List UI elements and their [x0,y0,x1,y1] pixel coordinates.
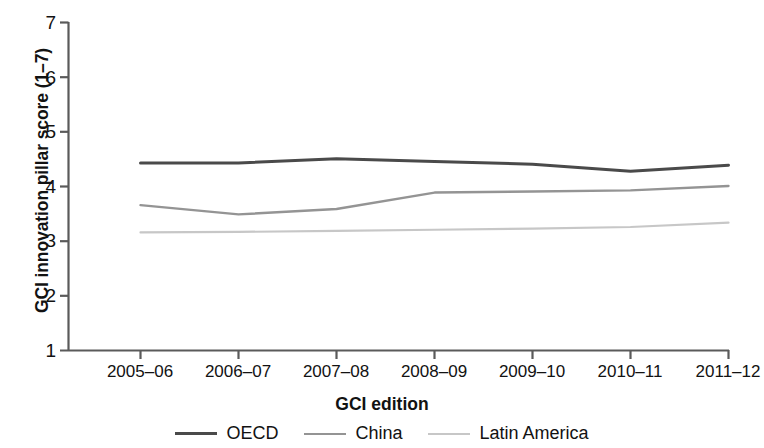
chart-legend: OECD China Latin America [0,423,764,444]
x-tick-label-2005-06: 2005–06 [85,362,195,382]
x-tick-label-2008-09: 2008–09 [379,362,489,382]
legend-item-latin-america: Latin America [428,423,588,444]
legend-swatch-latin-america [428,433,470,435]
legend-item-china: China [304,423,402,444]
series-line-china [141,186,729,214]
legend-label-china: China [355,423,402,444]
legend-label-latin-america: Latin America [479,423,588,444]
series-line-oecd [141,159,729,172]
x-axis-title: GCI edition [0,394,764,415]
legend-item-oecd: OECD [175,423,278,444]
legend-swatch-oecd [175,432,217,435]
x-tick-label-2009-10: 2009–10 [477,362,587,382]
x-tick-label-2006-07: 2006–07 [183,362,293,382]
chart-figure: GCI innovation pillar score (1–7) 7 6 5 … [0,0,764,448]
x-tick-label-2007-08: 2007–08 [281,362,391,382]
legend-swatch-china [304,433,346,435]
y-axis-ticks [60,23,69,296]
x-tick-label-2010-11: 2010–11 [575,362,685,382]
x-tick-label-2011-12: 2011–12 [673,362,764,382]
series-line-latin-america [141,223,729,233]
legend-label-oecd: OECD [226,423,278,444]
